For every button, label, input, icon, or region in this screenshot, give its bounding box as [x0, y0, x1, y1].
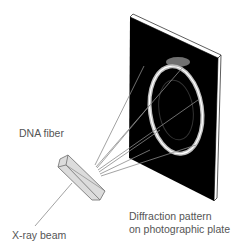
dna-fiber-crystal — [58, 155, 105, 200]
dna-fiber-label: DNA fiber — [19, 127, 64, 140]
xray-beam-line — [35, 183, 72, 226]
xray-diffraction-diagram: DNA fiber X-ray beam Diffraction pattern… — [0, 0, 241, 247]
diffraction-label-line1: Diffraction pattern — [129, 210, 212, 223]
photographic-plate — [129, 14, 221, 201]
xray-beam-label: X-ray beam — [12, 229, 66, 242]
diffraction-label-line2: on photographic plate — [129, 223, 230, 236]
